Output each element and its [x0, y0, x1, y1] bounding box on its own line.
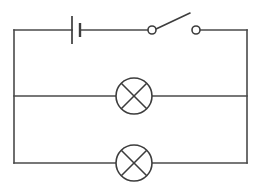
- circuit-schematic: [0, 0, 262, 185]
- switch-right-terminal-icon: [192, 26, 200, 34]
- lamp-lower-symbol: [116, 145, 152, 181]
- circuit-diagram-canvas: [0, 0, 262, 185]
- switch-lever-icon[interactable]: [156, 13, 190, 29]
- switch-symbol[interactable]: [148, 13, 200, 34]
- lamp-upper-symbol: [116, 78, 152, 114]
- battery-symbol: [72, 16, 80, 44]
- switch-left-terminal-icon: [148, 26, 156, 34]
